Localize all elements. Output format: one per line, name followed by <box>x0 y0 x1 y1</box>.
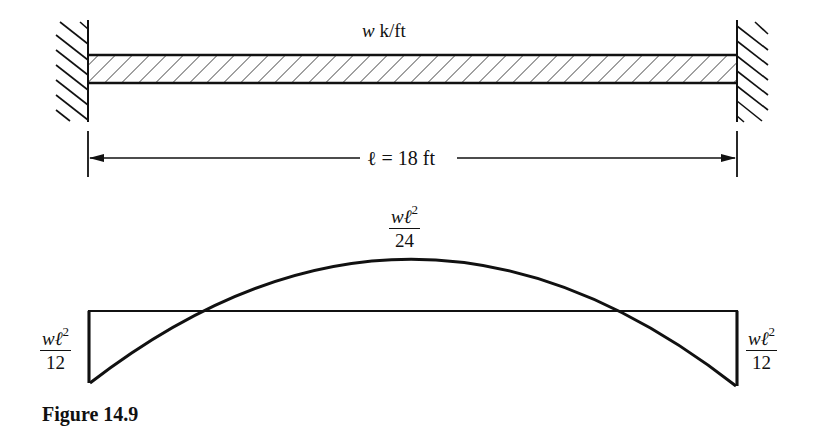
span-label: ℓ = 18 ft <box>367 147 435 170</box>
beam <box>88 55 737 83</box>
midspan-numerator: wℓ <box>391 206 412 227</box>
midspan-denominator: 24 <box>395 229 414 250</box>
figure-caption: Figure 14.9 <box>42 403 138 426</box>
moment-diagram <box>89 259 737 386</box>
midspan-exponent: 2 <box>412 202 419 217</box>
left-numerator: wℓ <box>42 328 63 349</box>
left-fixed-support <box>56 20 88 122</box>
load-unit: k/ft <box>375 20 406 41</box>
load-variable: w <box>362 20 375 41</box>
right-fixed-support <box>737 20 768 122</box>
right-denominator: 12 <box>752 351 771 372</box>
right-numerator: wℓ <box>748 328 769 349</box>
left-denominator: 12 <box>46 351 65 372</box>
left-exponent: 2 <box>63 324 70 339</box>
right-exponent: 2 <box>769 324 776 339</box>
left-end-moment-label: wℓ2 12 <box>40 327 71 372</box>
midspan-moment-label: wℓ2 24 <box>389 205 420 250</box>
load-label: w k/ft <box>362 20 406 42</box>
right-end-moment-label: wℓ2 12 <box>746 327 777 372</box>
